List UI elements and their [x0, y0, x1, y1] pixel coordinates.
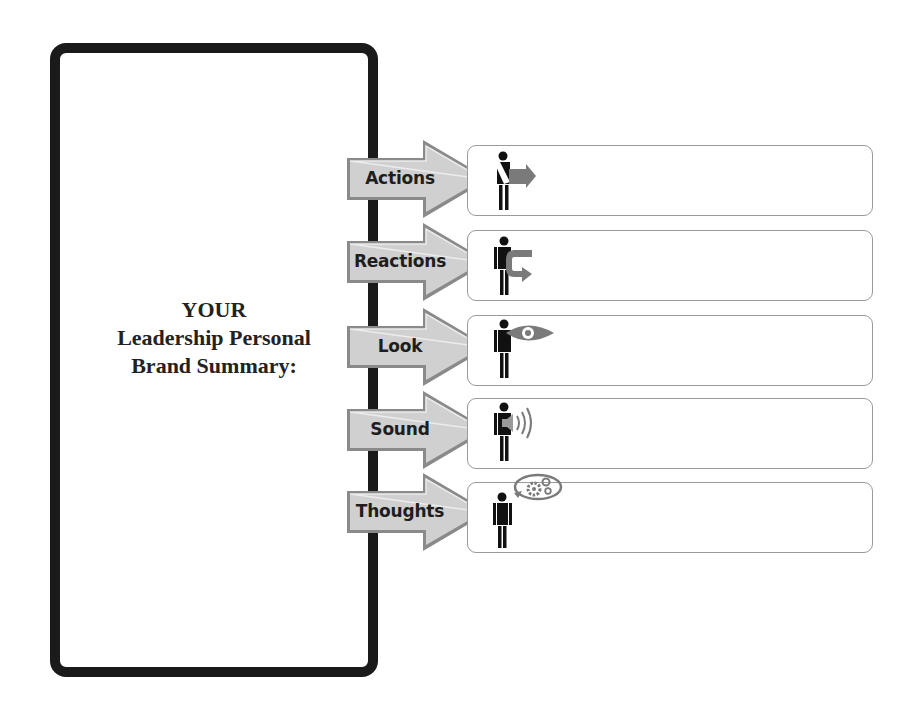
- row-look: Look: [0, 308, 920, 388]
- row-reactions: Reactions: [0, 223, 920, 303]
- label-sound: Sound: [347, 419, 453, 439]
- row-sound: Sound: [0, 391, 920, 471]
- person-eye-icon: [492, 318, 562, 384]
- row-actions: Actions: [0, 140, 920, 220]
- label-reactions: Reactions: [347, 251, 453, 271]
- person-arrow-right-icon: [492, 150, 552, 216]
- label-actions: Actions: [347, 168, 453, 188]
- label-thoughts: Thoughts: [347, 501, 453, 521]
- person-thought-gears-icon: [492, 473, 572, 549]
- person-speaker-icon: [492, 401, 562, 467]
- row-thoughts: Thoughts: [0, 473, 920, 553]
- label-look: Look: [347, 336, 453, 356]
- person-u-turn-arrow-icon: [492, 235, 552, 301]
